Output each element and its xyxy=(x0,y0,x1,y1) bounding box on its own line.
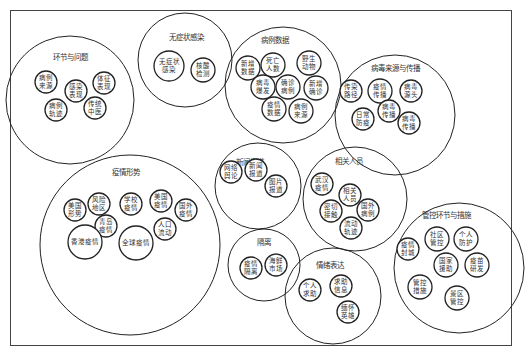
keyword-label: 个人 xyxy=(303,282,317,290)
keyword-node: 传染路径 xyxy=(340,80,362,102)
keyword-node: 病例来源 xyxy=(289,99,313,123)
topic-group-g6: 新闻报道网络舆论新闻报道图片报道 xyxy=(215,143,301,229)
keyword-label: 个人 xyxy=(459,231,473,239)
keyword-label: 国外 xyxy=(361,201,375,210)
topic-group-g7: 相关人员武汉疫情相关人员密切接触国外病例流动轨迹 xyxy=(303,147,407,251)
keyword-label: 风险 xyxy=(92,195,106,204)
keyword-node: 确诊病例 xyxy=(276,75,300,99)
keyword-label: 疫情 xyxy=(124,203,138,212)
keyword-label: 疫情 xyxy=(401,240,415,249)
keyword-label: 中医 xyxy=(88,107,102,116)
topic-group-g2: 无症状感染无症状感染核酸检测 xyxy=(138,13,232,107)
keyword-label: 求助 xyxy=(303,289,317,298)
keyword-node: 海鲜市场 xyxy=(265,254,287,276)
keyword-label: 传播 xyxy=(373,90,387,99)
keyword-label: 传统 xyxy=(88,99,102,108)
keyword-label: 英雄 xyxy=(341,311,355,320)
keyword-label: 海鲜 xyxy=(269,256,283,265)
topic-title: 环节与问题 xyxy=(53,53,89,62)
keyword-label: 数据 xyxy=(267,108,281,117)
keyword-label: 来源 xyxy=(39,81,53,90)
keyword-label: 封城 xyxy=(401,248,415,257)
keyword-node: 学校疫情 xyxy=(120,193,142,215)
keyword-label: 报道 xyxy=(269,185,283,194)
keyword-label: 援助 xyxy=(439,264,453,273)
topic-circle xyxy=(138,13,232,107)
keyword-node: 景区管控 xyxy=(445,286,469,310)
keyword-node: 病毒传播 xyxy=(378,100,400,122)
keyword-node: 社区管控 xyxy=(425,227,449,251)
keyword-label: 疫情 xyxy=(267,100,281,109)
keyword-label: 图片 xyxy=(269,177,283,186)
keyword-label: 病毒 xyxy=(256,78,270,87)
keyword-node: 国外病例 xyxy=(357,199,379,221)
keyword-label: 美国 xyxy=(68,201,82,210)
keyword-label: 路径 xyxy=(344,90,358,99)
keyword-label: 市场 xyxy=(269,264,283,273)
keyword-node: 疫情数据 xyxy=(262,97,286,121)
keyword-label: 病例 xyxy=(281,86,295,95)
keyword-node: 风险地区 xyxy=(88,193,110,215)
keyword-label: 求助 xyxy=(334,277,348,286)
topic-group-g3: 病例数据新增数据死亡人数野生动物病毒爆发确诊病例新增确诊疫情数据病例来源 xyxy=(225,27,341,143)
keyword-label: 报道 xyxy=(249,169,263,178)
keyword-label: 表现 xyxy=(69,90,83,99)
keyword-label: 流动 xyxy=(158,228,172,237)
keyword-label: 感染 xyxy=(69,82,83,91)
keyword-label: 动物 xyxy=(302,62,316,71)
keyword-label: 确诊 xyxy=(281,78,295,87)
keyword-label: 传播 xyxy=(402,122,416,131)
keyword-node: 全球疫情 xyxy=(119,226,153,260)
keyword-label: 表现 xyxy=(97,82,111,91)
keyword-node: 新增确诊 xyxy=(304,76,328,100)
keyword-label: 隔离 xyxy=(244,267,258,276)
topic-group-g9: 隔离疫情隔离海鲜市场 xyxy=(228,229,300,301)
keyword-label: 疫情 xyxy=(373,82,387,91)
keyword-node: 图片报道 xyxy=(265,175,287,197)
keyword-label: 学校 xyxy=(124,195,138,204)
keyword-node: 体征表现 xyxy=(93,72,115,94)
keyword-label: 疫情 xyxy=(244,259,258,268)
keyword-node: 新闻报道 xyxy=(245,159,267,181)
keyword-label: 疫情 xyxy=(154,200,168,209)
keyword-label: 管控 xyxy=(450,297,464,306)
keyword-node: 野生动物 xyxy=(297,51,321,75)
topic-title: 病毒来源与传播 xyxy=(371,63,421,73)
keyword-label: 传播 xyxy=(382,110,396,119)
keyword-label: 病毒 xyxy=(382,102,396,111)
keyword-node: 求助信息 xyxy=(330,275,352,297)
keyword-label: 防疫 xyxy=(356,118,370,127)
keyword-label: 接触 xyxy=(324,210,338,219)
keyword-node: 个人求助 xyxy=(299,279,321,301)
keyword-node: 核酸检测 xyxy=(191,58,215,82)
keyword-label: 国家 xyxy=(439,256,453,265)
keyword-label: 病例 xyxy=(39,73,53,82)
keyword-label: 形势 xyxy=(68,209,82,218)
keyword-node: 美国疫情 xyxy=(150,190,172,212)
keyword-label: 轨迹 xyxy=(49,109,63,118)
keyword-label: 传染 xyxy=(344,82,358,91)
keyword-label: 数据 xyxy=(241,67,255,76)
keyword-label: 青岛 xyxy=(99,217,113,226)
keyword-label: 新增 xyxy=(241,59,255,68)
keyword-label: 武汉 xyxy=(315,175,329,184)
keyword-label: 爆发 xyxy=(256,86,270,95)
keyword-label: 感染 xyxy=(162,65,176,74)
topic-group-g1: 环节与问题病例来源感染表现体征表现病例轨迹传统中医 xyxy=(6,36,134,164)
keyword-label: 信息 xyxy=(334,285,348,294)
keyword-node: 传统中医 xyxy=(84,97,106,119)
keyword-label: 景区 xyxy=(450,290,464,298)
keyword-label: 体征 xyxy=(97,74,111,83)
keyword-label: 检测 xyxy=(196,69,210,78)
keyword-label: 核酸 xyxy=(196,61,210,70)
keyword-label: 新增 xyxy=(309,79,323,88)
keyword-label: 香港疫情 xyxy=(71,237,99,246)
keyword-label: 来源 xyxy=(294,110,308,119)
keyword-label: 密切 xyxy=(324,202,338,211)
topic-title: 情绪表达 xyxy=(316,260,345,270)
keyword-node: 病毒传播 xyxy=(398,112,420,134)
keyword-node: 疫苗研发 xyxy=(465,253,489,277)
keyword-node: 相关人员 xyxy=(339,184,361,206)
keyword-label: 病例 xyxy=(361,209,375,218)
keyword-node: 人口流动 xyxy=(154,218,176,240)
